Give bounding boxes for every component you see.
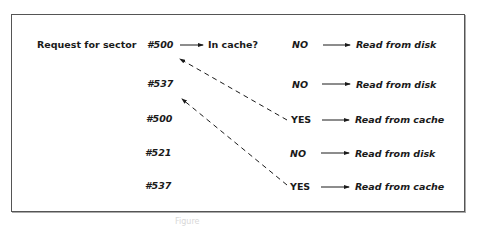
- figure-caption: Figure: [175, 217, 199, 226]
- cache-hit-link-537: [182, 99, 287, 185]
- diagram-arrows: [0, 0, 478, 229]
